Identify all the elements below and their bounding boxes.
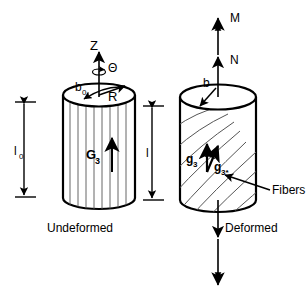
l-label: l xyxy=(146,146,149,160)
l0-label-sub: 0 xyxy=(19,152,24,161)
l0-label: l xyxy=(14,144,17,158)
fibers-label: Fibers xyxy=(272,183,305,197)
z-axis-label: Z xyxy=(90,38,98,53)
figure-container: Z Θ R b 0 G 3 l 0 Undeformed xyxy=(0,0,307,295)
b0-label: b xyxy=(75,80,82,94)
N-load-label: N xyxy=(230,53,239,67)
undeformed-caption: Undeformed xyxy=(47,221,113,235)
l0-label-group: l 0 xyxy=(14,144,24,161)
undeformed-cylinder-group: Z Θ R b 0 G 3 l 0 Undeformed xyxy=(14,38,135,235)
M-load-label: M xyxy=(230,11,240,25)
theta-axis-label: Θ xyxy=(108,61,117,75)
undeformed-cylinder-body xyxy=(63,95,135,209)
g3-label-sub: 3 xyxy=(193,160,198,169)
b-label: b xyxy=(203,76,210,90)
deformed-caption: Deformed xyxy=(225,221,278,235)
deformed-cylinder-group: M N b g 3 g 3* l Fibers Deformed xyxy=(143,11,305,285)
G3-label-sub: 3 xyxy=(95,156,100,166)
b0-label-sub: 0 xyxy=(82,88,87,97)
g3-star-label-sub: 3* xyxy=(221,168,229,177)
radius-label: R xyxy=(108,89,117,104)
